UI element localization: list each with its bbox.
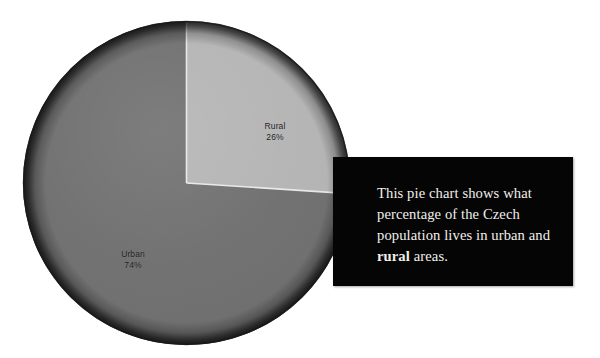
pie-svg — [22, 20, 351, 346]
caption-text: This pie chart shows what percentage of … — [377, 183, 563, 267]
pie-label-urban-name: Urban — [102, 249, 164, 260]
pie-chart-figure: Rural 26% Urban 74% This pie chart shows… — [0, 0, 600, 358]
caption-segment-0: This pie chart shows what percentage of … — [377, 185, 550, 243]
caption-card: This pie chart shows what percentage of … — [333, 157, 573, 286]
pie-label-rural: Rural 26% — [244, 121, 306, 143]
pie-label-urban-value: 74% — [102, 260, 164, 271]
pie-label-urban: Urban 74% — [102, 249, 164, 271]
caption-segment-1: rural — [377, 248, 410, 264]
pie-chart-graphic: Rural 26% Urban 74% — [22, 20, 351, 346]
pie-label-rural-name: Rural — [244, 121, 306, 132]
caption-segment-2: areas. — [410, 248, 448, 264]
pie-bevel-rim — [23, 21, 350, 345]
pie-label-rural-value: 26% — [244, 132, 306, 143]
